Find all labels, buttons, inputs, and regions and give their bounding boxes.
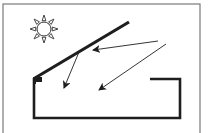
sun-ray	[49, 19, 54, 24]
sunlight-room-diagram	[0, 0, 210, 133]
sun-ray	[42, 37, 46, 43]
sun-ray	[34, 19, 39, 24]
diagram-frame	[3, 4, 200, 133]
roof-corner-notch	[33, 77, 42, 84]
sun-ray	[52, 27, 58, 31]
ray-arrow-into-room	[99, 44, 166, 90]
ray-arrow-to-roof	[93, 41, 158, 50]
sun-ray	[30, 27, 36, 31]
sun-ray	[42, 15, 46, 21]
sun-ray	[49, 34, 54, 39]
sun-ray	[34, 34, 39, 39]
sun-icon	[30, 15, 58, 43]
